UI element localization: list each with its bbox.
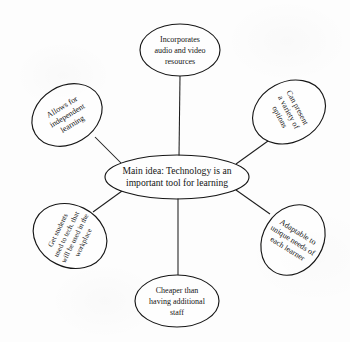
connector-get-students-used-to-tech [93,191,122,212]
central-node[interactable]: Main idea: Technology is animportant too… [105,155,249,199]
central-node-label: Main idea: Technology is animportant too… [123,165,232,188]
connector-can-present-variety [236,141,268,164]
connector-allows-independent-learning [95,137,121,163]
concept-map-diagram: Incorporatesaudio and videoresourcesCan … [0,0,350,342]
branch-adaptable-unique-needs[interactable]: Adaptable tounique needs ofeach learner [248,193,338,288]
branch-incorporates-media[interactable]: Incorporatesaudio and videoresources [140,24,220,76]
spider-diagram-canvas: Incorporatesaudio and videoresourcesCan … [0,0,350,342]
connector-adaptable-unique-needs [236,190,270,214]
connector-incorporates-media [179,76,180,156]
branch-can-present-variety[interactable]: Can presenta variety ofoptions [241,68,336,157]
branch-cheaper-than-staff[interactable]: Cheaper thanhaving additionalstaff [135,275,219,327]
nodes-group: Incorporatesaudio and videoresourcesCan … [20,24,338,327]
branch-allows-independent-learning[interactable]: Allows forindependentlearning [20,71,113,159]
